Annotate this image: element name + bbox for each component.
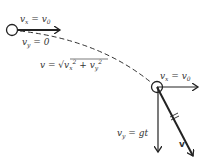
later-vy-label: vy = gt xyxy=(117,128,149,140)
later-v-arrow xyxy=(157,87,193,156)
start-ball xyxy=(7,25,18,36)
projectile-diagram: vx = v0 vy = 0 v = √vx2 + vy2 vx = v0 vy… xyxy=(0,0,202,160)
start-vy-label: vy = 0 xyxy=(22,37,50,49)
later-vx-label: vx = v0 xyxy=(160,71,191,82)
speed-formula: v = √vx2 + vy2 xyxy=(40,58,102,72)
start-vx-label: vx = v0 xyxy=(20,14,51,25)
later-v-label: v xyxy=(179,139,185,149)
